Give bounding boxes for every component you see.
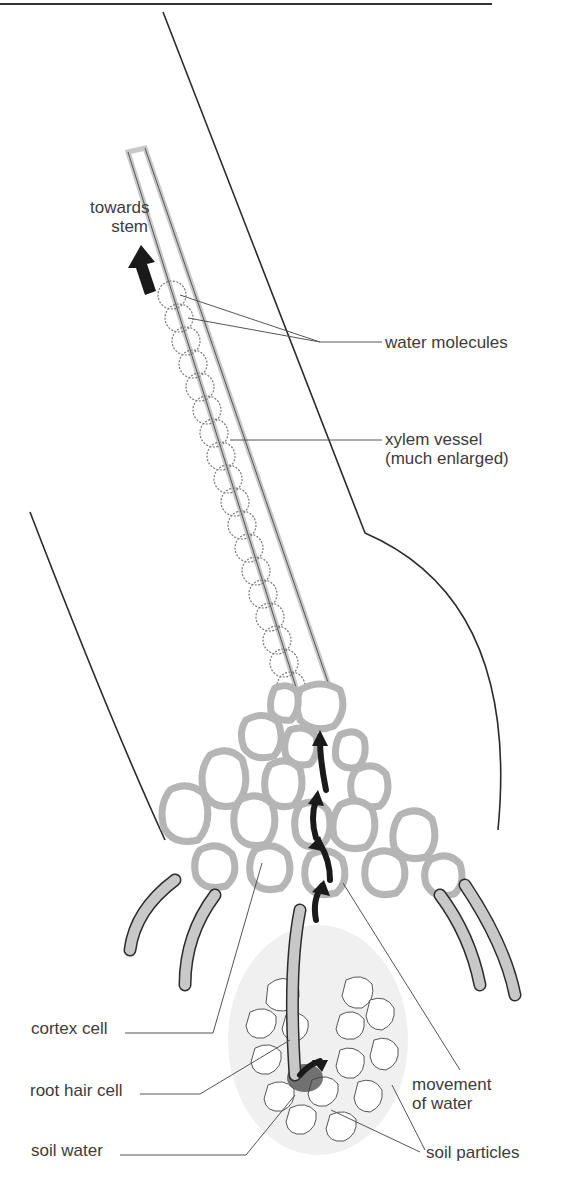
label-towards-stem: towards stem [90, 198, 148, 236]
label-water-molecules: water molecules [385, 333, 508, 352]
label-xylem-vessel-line2: (much enlarged) [385, 449, 509, 468]
root-water-uptake-diagram [0, 0, 569, 1189]
label-of-water: of water [412, 1094, 491, 1113]
arrow-up-icon [128, 245, 156, 295]
label-root-hair-cell: root hair cell [30, 1081, 123, 1100]
label-soil-particles: soil particles [426, 1143, 520, 1162]
label-soil-water: soil water [31, 1141, 103, 1160]
label-cortex-cell: cortex cell [31, 1019, 108, 1038]
soil-area [228, 925, 408, 1155]
cortex-cells [162, 684, 462, 896]
label-xylem-vessel-line1: xylem vessel [385, 430, 509, 449]
label-movement: movement [412, 1075, 491, 1094]
label-stem: stem [90, 217, 148, 236]
label-xylem-vessel: xylem vessel (much enlarged) [385, 430, 509, 468]
label-towards: towards [90, 198, 148, 217]
label-movement-of-water: movement of water [412, 1075, 491, 1113]
xylem-vessel [128, 148, 330, 700]
